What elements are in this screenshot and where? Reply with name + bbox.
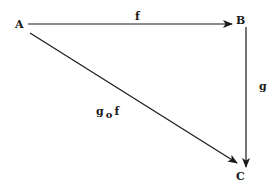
commutative-diagram: A B C f g gof — [0, 0, 279, 193]
label-f: f — [135, 11, 140, 22]
comp-op: o — [106, 109, 113, 120]
arrow-gof-a-to-c — [30, 33, 237, 163]
node-a: A — [15, 19, 24, 30]
arrows-layer — [0, 0, 279, 193]
label-g-compose-f: gof — [96, 106, 119, 117]
label-g: g — [259, 81, 267, 92]
comp-right: f — [114, 105, 119, 118]
node-c: C — [236, 171, 245, 182]
comp-left: g — [96, 105, 104, 118]
node-b: B — [236, 15, 245, 26]
